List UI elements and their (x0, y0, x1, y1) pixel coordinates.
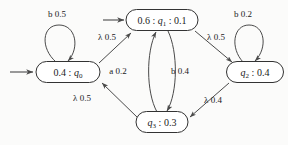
edge-label-q2-to-q3: λ 0.4 (204, 95, 222, 105)
edge-label-q1-to-q2: λ 0.5 (207, 32, 225, 42)
state-q0-label-prefix: 0.4 : (54, 67, 74, 78)
state-q1-label-suffix: : 0.1 (166, 15, 186, 26)
edge-label-q2-self-loop: b 0.2 (234, 9, 252, 19)
edge-label-q0-self-loop: b 0.5 (48, 9, 67, 19)
edge-q2-self-loop (235, 25, 263, 62)
edge-label-q3-to-q1: a 0.2 (109, 66, 127, 76)
state-q2-label-suffix: : 0.4 (249, 67, 269, 78)
state-q2[interactable]: q2 : 0.4 (227, 62, 284, 83)
edge-label-q1-to-q3: b 0.4 (171, 66, 190, 76)
state-q0-label-sub: 0 (79, 72, 83, 80)
edge-label-q3-to-q0: λ 0.5 (73, 93, 91, 103)
state-q1[interactable]: 0.6 : q1 : 0.1 (126, 10, 198, 31)
edge-label-q0-to-q1: λ 0.5 (98, 32, 116, 42)
edge-q3-to-q1 (149, 32, 157, 112)
edge-q0-self-loop (45, 25, 75, 62)
state-q3[interactable]: q3 : 0.3 (136, 112, 188, 133)
state-q3-label-suffix: : 0.3 (156, 117, 176, 128)
state-q0[interactable]: 0.4 : q0 (36, 62, 100, 83)
state-q1-label-prefix: 0.6 : (137, 15, 157, 26)
automaton-diagram: b 0.5 λ 0.5 λ 0.5 b 0.2 λ 0.5 a 0.2 b 0.… (0, 0, 288, 145)
edge-q3-to-q0 (102, 83, 138, 118)
diagram-canvas: b 0.5 λ 0.5 λ 0.5 b 0.2 λ 0.5 a 0.2 b 0.… (0, 0, 288, 145)
